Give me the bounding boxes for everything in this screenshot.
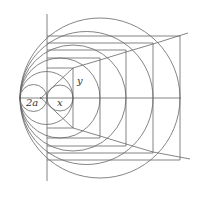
label-2a: 2a — [25, 97, 38, 108]
diagram-figure: 2a x y — [0, 0, 201, 198]
construction-svg: 2a x y — [0, 0, 201, 198]
label-y: y — [76, 75, 83, 86]
label-x: x — [57, 97, 63, 108]
